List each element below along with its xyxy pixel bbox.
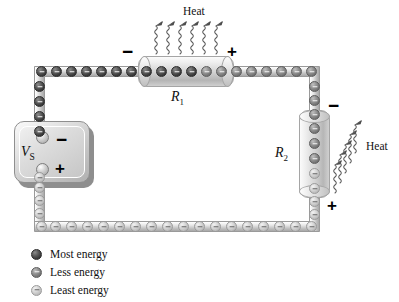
electron-less <box>309 138 320 149</box>
resistor-r2-label: R2 <box>275 145 288 163</box>
resistor-r1-label-text: R <box>171 89 180 104</box>
legend-swatch-least-energy <box>31 285 42 296</box>
electron-less <box>276 66 287 77</box>
electron-least <box>34 182 45 193</box>
electron-least <box>290 221 301 232</box>
heat-label-r2: Heat <box>366 140 388 152</box>
heat-arrows-r2 <box>333 115 377 199</box>
electron-least <box>50 221 61 232</box>
electron-less <box>216 66 227 77</box>
electron-most <box>81 66 92 77</box>
resistor-r1-minus-sign: − <box>122 42 133 61</box>
electron-less <box>291 66 302 77</box>
voltage-source-label-sub: S <box>30 152 35 162</box>
resistor-r1-label-sub: 1 <box>180 97 185 107</box>
heat-label-r1: Heat <box>183 5 205 17</box>
electron-least <box>242 221 253 232</box>
electron-most <box>126 66 137 77</box>
electron-least <box>306 221 317 232</box>
electron-less <box>306 66 317 77</box>
electron-least <box>82 221 93 232</box>
electron-least <box>162 221 173 232</box>
voltage-source-minus-sign: − <box>56 130 67 149</box>
electron-least <box>194 221 205 232</box>
electron-most <box>96 66 107 77</box>
legend: Most energy Less energy Least energy <box>31 246 109 300</box>
electron-less <box>246 66 257 77</box>
circuit-diagram-canvas: R1 − + Heat R2 − + <box>0 0 399 302</box>
electron-least <box>98 221 109 232</box>
electron-least <box>210 221 221 232</box>
legend-swatch-less-energy <box>31 267 42 278</box>
electron-most <box>156 66 167 77</box>
electron-most <box>51 66 62 77</box>
electron-least <box>258 221 269 232</box>
heat-arrows-r1 <box>152 18 240 56</box>
voltage-source-label-text: V <box>21 144 30 159</box>
electron-least <box>309 196 320 207</box>
resistor-r2-minus-sign: − <box>328 96 339 115</box>
electron-less <box>201 66 212 77</box>
electron-least <box>114 221 125 232</box>
electron-least <box>178 221 189 232</box>
electron-least <box>146 221 157 232</box>
electron-most <box>111 66 122 77</box>
legend-label-most-energy: Most energy <box>50 248 108 260</box>
legend-swatch-most-energy <box>31 249 42 260</box>
electron-less <box>309 109 320 120</box>
electron-least <box>309 183 320 194</box>
electron-most <box>34 96 45 107</box>
electron-less <box>309 95 320 106</box>
electron-most <box>66 66 77 77</box>
voltage-source-plus-sign: + <box>55 160 65 177</box>
electron-less <box>309 123 320 134</box>
resistor-r2-label-sub: 2 <box>284 153 289 163</box>
electron-most <box>34 81 45 92</box>
legend-item-least: Least energy <box>31 282 109 298</box>
electron-most <box>34 126 45 137</box>
electron-most <box>34 111 45 122</box>
electron-least <box>34 208 45 219</box>
voltage-source-label: VS <box>21 144 35 162</box>
electron-least <box>34 172 45 183</box>
electron-least <box>274 221 285 232</box>
legend-label-less-energy: Less energy <box>50 266 105 278</box>
electron-less <box>309 81 320 92</box>
electron-least <box>36 221 47 232</box>
electron-most <box>36 66 47 77</box>
legend-label-least-energy: Least energy <box>50 284 109 296</box>
electron-most <box>186 66 197 77</box>
electron-least <box>130 221 141 232</box>
electron-most <box>171 66 182 77</box>
electron-least <box>66 221 77 232</box>
electron-less <box>231 66 242 77</box>
electron-most <box>141 66 152 77</box>
electron-least <box>226 221 237 232</box>
legend-item-most: Most energy <box>31 246 109 262</box>
electron-least <box>309 209 320 220</box>
electron-least <box>34 195 45 206</box>
legend-item-less: Less energy <box>31 264 109 280</box>
resistor-r2-label-text: R <box>275 145 284 160</box>
electron-less <box>261 66 272 77</box>
resistor-r1-label: R1 <box>171 89 184 107</box>
resistor-r2-plus-sign: + <box>327 197 337 214</box>
electron-least <box>309 168 320 179</box>
electron-less <box>309 153 320 164</box>
